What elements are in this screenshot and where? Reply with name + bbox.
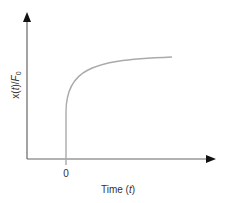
- x-axis-arrow-icon: [206, 155, 216, 163]
- y-axis-label: x(t)/F0: [10, 71, 22, 98]
- y-axis-arrow-icon: [23, 12, 31, 22]
- chart: 0 Time (t) x(t)/F0: [0, 0, 226, 203]
- x-axis-label: Time (t): [101, 184, 135, 195]
- response-curve: [66, 57, 172, 165]
- x-tick-0: 0: [63, 168, 69, 179]
